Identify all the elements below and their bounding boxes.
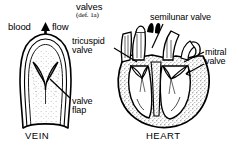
label-semilunar-valve: semilunar valve bbox=[150, 13, 211, 22]
caption-vein: VEIN bbox=[25, 131, 49, 141]
label-tricuspid-valve-line2: valve bbox=[72, 46, 93, 55]
heart-diagram bbox=[118, 23, 209, 128]
label-valve-flap-line2: flap bbox=[72, 106, 86, 115]
label-blood: blood bbox=[8, 22, 31, 32]
figure-sense-reference: (def. 1a) bbox=[76, 12, 99, 19]
label-flow: flow bbox=[52, 22, 69, 32]
vein-diagram bbox=[20, 34, 71, 128]
caption-heart: HEART bbox=[146, 131, 181, 141]
label-mitral-valve-line2: valve bbox=[205, 57, 226, 66]
